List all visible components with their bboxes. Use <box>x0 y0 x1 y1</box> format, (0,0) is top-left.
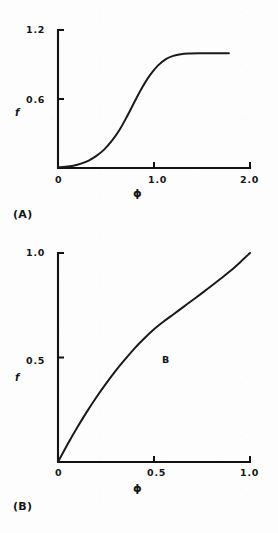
chart-a-ytick-label-0: 0.6 <box>26 95 45 105</box>
chart-b-region-annotation: B <box>162 355 170 365</box>
chart-panel-b: 1.0 0.5 f B 0 0.5 1.0 ϕ (B) <box>0 240 278 533</box>
chart-b-ytick-label-0: 0.5 <box>26 356 45 366</box>
chart-a-plot-area <box>0 0 278 240</box>
chart-a-ylabel: f <box>15 108 20 118</box>
chart-a-xtick-label-1: 1.0 <box>148 175 167 185</box>
chart-b-xtick-label-0: 0 <box>55 468 62 478</box>
chart-b-xtick-label-2: 1.0 <box>240 468 259 478</box>
chart-b-ytick-label-1: 1.0 <box>26 248 45 258</box>
chart-a-xtick-label-0: 0 <box>55 175 62 185</box>
chart-a-ytick-label-1: 1.2 <box>26 25 45 35</box>
figure-page: 1.2 0.6 f 0 1.0 2.0 ϕ (A) 1.0 0.5 f B 0 … <box>0 0 278 533</box>
chart-a-xtick-label-2: 2.0 <box>240 175 259 185</box>
panel-b-caption: (B) <box>13 501 32 512</box>
chart-b-ylabel: f <box>15 373 20 383</box>
chart-panel-a: 1.2 0.6 f 0 1.0 2.0 ϕ (A) <box>0 0 278 240</box>
chart-b-xlabel: ϕ <box>133 483 142 494</box>
panel-a-caption: (A) <box>13 209 32 220</box>
chart-a-xlabel: ϕ <box>133 188 142 199</box>
chart-b-xtick-label-1: 0.5 <box>147 468 166 478</box>
